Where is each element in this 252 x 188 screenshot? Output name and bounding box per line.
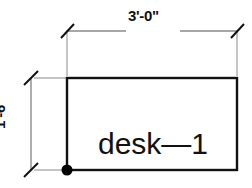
left-dimension-label: 1'-6": [0, 98, 7, 129]
desk-label: desk—1: [98, 129, 208, 159]
drawing-canvas: 3'-0" 1'-6" desk—1: [0, 0, 252, 188]
left-dimension-group: [24, 71, 66, 177]
insertion-point-marker[interactable]: [62, 165, 73, 176]
top-dimension-label: 3'-0": [128, 8, 159, 23]
top-dimension-group: [61, 24, 244, 76]
